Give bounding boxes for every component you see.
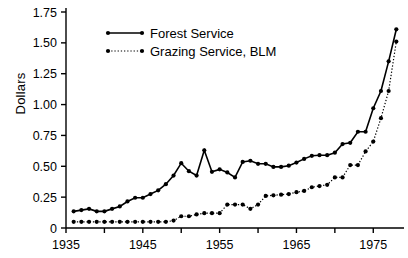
legend-item-grazing-service-blm: Grazing Service, BLM [106,44,277,59]
data-point [87,207,91,211]
data-point [133,196,137,200]
data-point [317,153,321,157]
data-point [125,220,129,224]
data-point [118,204,122,208]
x-tick-label: 1965 [283,238,311,252]
data-point [179,161,183,165]
data-point [271,165,275,169]
legend-item-forest-service: Forest Service [106,26,234,41]
data-point [302,157,306,161]
data-point [356,130,360,134]
data-point [102,220,106,224]
data-point [233,202,237,206]
data-point [125,199,129,203]
data-point [310,185,314,189]
data-point [225,202,229,206]
y-tick-label: 1.00 [33,98,57,112]
data-point [287,192,291,196]
y-tick-label: 1.75 [33,6,57,20]
x-tick-label: 1975 [359,238,387,252]
data-point [302,189,306,193]
y-tick-label: 0.25 [33,191,57,205]
data-point [394,40,398,44]
data-point [279,193,283,197]
data-point [287,164,291,168]
y-tick-label: 0.75 [33,129,57,143]
data-point [363,130,367,134]
chart-container: Dollars 00.250.500.751.001.251.501.75 19… [0,0,408,258]
data-point [202,211,206,215]
y-tick-label: 0.50 [33,160,57,174]
data-point [271,193,275,197]
x-tick-label: 1945 [129,238,157,252]
data-point [148,192,152,196]
data-point [325,153,329,157]
data-point [179,214,183,218]
data-point [241,202,245,206]
data-point [148,220,152,224]
data-point [248,159,252,163]
data-point [141,196,145,200]
data-point [171,173,175,177]
data-point [171,218,175,222]
y-axis-ticks: 00.250.500.751.001.251.501.75 [33,6,66,236]
data-point [294,190,298,194]
data-point [248,207,252,211]
data-point [141,220,145,224]
data-point [387,59,391,63]
data-point [379,116,383,120]
line-chart: 00.250.500.751.001.251.501.75 1935194519… [0,0,408,258]
data-point [210,211,214,215]
data-point [79,220,83,224]
data-point [133,220,137,224]
data-point [187,169,191,173]
series-grazing-service-blm [72,40,399,224]
data-point [187,214,191,218]
data-point [79,208,83,212]
data-point [256,162,260,166]
y-tick-label: 1.25 [33,67,57,81]
legend-label: Forest Service [150,26,234,41]
data-point [317,184,321,188]
data-point [102,209,106,213]
data-point [218,211,222,215]
chart-legend: Forest ServiceGrazing Service, BLM [106,26,277,59]
data-point [72,220,76,224]
data-point [72,209,76,213]
data-point [164,182,168,186]
data-point [340,142,344,146]
data-point [348,141,352,145]
data-point [294,160,298,164]
data-point [95,209,99,213]
data-point [333,175,337,179]
data-point [225,170,229,174]
data-point [95,220,99,224]
data-point [156,188,160,192]
data-point [241,160,245,164]
data-point [110,220,114,224]
data-point [194,212,198,216]
data-point [387,89,391,93]
data-point [194,173,198,177]
data-point [348,163,352,167]
data-point [210,170,214,174]
data-point [233,175,237,179]
data-point [379,89,383,93]
x-tick-label: 1935 [52,238,80,252]
data-point [87,220,91,224]
legend-label: Grazing Service, BLM [150,44,276,59]
data-point [164,220,168,224]
data-point [279,165,283,169]
data-point [218,167,222,171]
data-point [333,151,337,155]
data-point [264,194,268,198]
data-point [340,175,344,179]
x-tick-label: 1955 [206,238,234,252]
data-point [202,148,206,152]
data-point [256,202,260,206]
data-point [394,27,398,31]
data-point [264,162,268,166]
data-point [363,149,367,153]
y-tick-label: 1.50 [33,36,57,50]
data-point [325,183,329,187]
